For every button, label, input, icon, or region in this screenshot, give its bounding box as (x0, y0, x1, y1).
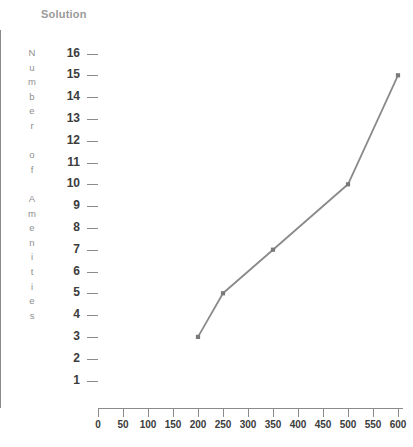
y-axis-tick-label: 6 (38, 264, 80, 278)
y-axis-tick-label: 10 (38, 176, 80, 190)
x-axis-tick (273, 409, 274, 417)
y-axis-tick-label: 7 (38, 242, 80, 256)
y-axis-tick (87, 75, 98, 76)
x-axis-tick (348, 409, 349, 417)
y-axis-line (0, 30, 1, 408)
x-axis-tick-label: 600 (378, 419, 413, 430)
y-axis-tick (87, 163, 98, 164)
y-axis-tick-label: 15 (38, 67, 80, 81)
data-point-marker (196, 335, 200, 339)
x-axis-tick (173, 409, 174, 417)
y-axis-tick (87, 381, 98, 382)
y-axis-tick (87, 250, 98, 251)
y-axis-tick (87, 272, 98, 273)
y-axis-tick-label: 8 (38, 220, 80, 234)
data-point-marker (396, 73, 400, 77)
x-axis-tick (373, 409, 374, 417)
x-axis-tick (148, 409, 149, 417)
y-axis-tick (87, 119, 98, 120)
y-axis-tick (87, 141, 98, 142)
y-axis-tick (87, 359, 98, 360)
y-axis-tick (87, 315, 98, 316)
y-axis-tick (87, 184, 98, 185)
x-axis-tick (198, 409, 199, 417)
x-axis-tick (223, 409, 224, 417)
chart-title: Solution (41, 8, 87, 20)
y-axis-tick (87, 228, 98, 229)
y-axis-tick (87, 293, 98, 294)
y-axis-tick (87, 337, 98, 338)
y-axis-tick-label: 16 (38, 46, 80, 60)
y-axis-tick-label: 1 (38, 373, 80, 387)
x-axis-tick (398, 409, 399, 417)
line-chart: Solution N u m b e r o f A m e n i t i e… (0, 0, 413, 447)
x-axis-tick (298, 409, 299, 417)
data-point-marker (271, 248, 275, 252)
x-axis-tick (323, 409, 324, 417)
y-axis-tick (87, 206, 98, 207)
y-axis-tick (87, 54, 98, 55)
x-axis-tick (248, 409, 249, 417)
x-axis-tick (123, 409, 124, 417)
data-point-marker (221, 291, 225, 295)
y-axis-tick-label: 3 (38, 329, 80, 343)
y-axis-tick-label: 5 (38, 285, 80, 299)
y-axis-tick-label: 2 (38, 351, 80, 365)
y-axis-tick (87, 97, 98, 98)
data-point-marker (346, 182, 350, 186)
y-axis-tick-label: 4 (38, 307, 80, 321)
y-axis-tick-label: 12 (38, 133, 80, 147)
x-axis-line (98, 408, 403, 409)
y-axis-tick-label: 9 (38, 198, 80, 212)
y-axis-tick-label: 14 (38, 89, 80, 103)
y-axis-tick-label: 11 (38, 155, 80, 169)
x-axis-tick (98, 409, 99, 417)
y-axis-tick-label: 13 (38, 111, 80, 125)
